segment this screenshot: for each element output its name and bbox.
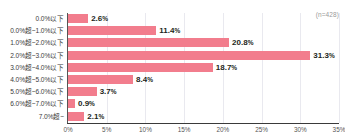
bar-value-label: 3.7%	[100, 86, 117, 97]
bar-row: 0.0%超~1.0%以下11.4%	[0, 25, 342, 36]
bar	[68, 87, 97, 96]
bar-row: 5.0%超~6.0%以下3.7%	[0, 86, 342, 97]
category-label: 2.0%超~3.0%以下	[0, 50, 64, 61]
bar-value-label: 8.4%	[136, 74, 153, 85]
bar	[68, 112, 84, 121]
bar-row: 6.0%超~7.0%以下0.9%	[0, 98, 342, 109]
category-label: 5.0%超~6.0%以下	[0, 86, 64, 97]
x-axis-tick-label: 20%	[216, 124, 229, 135]
bar-row: 4.0%超~5.0%以下8.4%	[0, 74, 342, 85]
x-axis-tick-label: 10%	[139, 124, 152, 135]
bar-value-label: 2.1%	[87, 111, 104, 122]
category-label: 7.0%超~	[0, 111, 64, 122]
x-axis-tick-label: 25%	[255, 124, 268, 135]
bar-row-group: 0.0%以下2.6%0.0%超~1.0%以下11.4%1.0%超~2.0%以下2…	[0, 0, 342, 110]
x-axis-tick-label: 5%	[102, 124, 111, 135]
category-label: 1.0%超~2.0%以下	[0, 37, 64, 48]
category-label: 6.0%超~7.0%以下	[0, 98, 64, 109]
category-label: 0.0%超~1.0%以下	[0, 25, 64, 36]
category-label: 3.0%超~4.0%以下	[0, 62, 64, 73]
bar-row: 7.0%超~2.1%	[0, 111, 342, 122]
category-label: 0.0%以下	[0, 13, 64, 24]
bar-value-label: 18.7%	[216, 62, 237, 73]
bar	[68, 63, 213, 72]
bar	[68, 99, 75, 108]
bar	[68, 26, 156, 35]
bar	[68, 51, 310, 60]
x-axis-tick-label: 35%	[333, 124, 345, 135]
bar-row: 1.0%超~2.0%以下20.8%	[0, 37, 342, 48]
bar	[68, 75, 133, 84]
bar-value-label: 31.3%	[313, 50, 334, 61]
bar-row: 3.0%超~4.0%以下18.7%	[0, 62, 342, 73]
x-axis-tick-label: 30%	[294, 124, 307, 135]
x-axis-tick-label: 0%	[63, 124, 72, 135]
bar	[68, 38, 229, 47]
bar-value-label: 20.8%	[232, 37, 253, 48]
bar-value-label: 2.6%	[91, 13, 108, 24]
bar	[68, 14, 88, 23]
bar-value-label: 0.9%	[78, 98, 95, 109]
bar-row: 2.0%超~3.0%以下31.3%	[0, 50, 342, 61]
x-axis-tick-group: 0%5%10%15%20%25%30%35%	[0, 124, 342, 136]
category-label: 4.0%超~5.0%以下	[0, 74, 64, 85]
bar-row: 0.0%以下2.6%	[0, 13, 342, 24]
bar-value-label: 11.4%	[159, 25, 180, 36]
x-axis-tick-label: 15%	[178, 124, 191, 135]
